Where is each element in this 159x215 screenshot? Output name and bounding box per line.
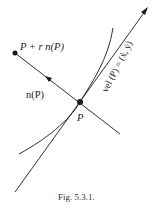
label-point-p: P — [76, 112, 84, 123]
label-normal: n(P) — [26, 89, 45, 101]
figure-caption: Fig. 5.3.1. — [58, 192, 95, 202]
tangent-arrow-icon — [141, 7, 148, 15]
figure-canvas: P + r n(P) n(P) P vel (P) = (ẋ, ẏ) Fig. … — [0, 0, 159, 215]
point-p — [77, 99, 83, 105]
point-offset — [13, 51, 18, 56]
label-point-offset: P + r n(P) — [19, 41, 64, 53]
